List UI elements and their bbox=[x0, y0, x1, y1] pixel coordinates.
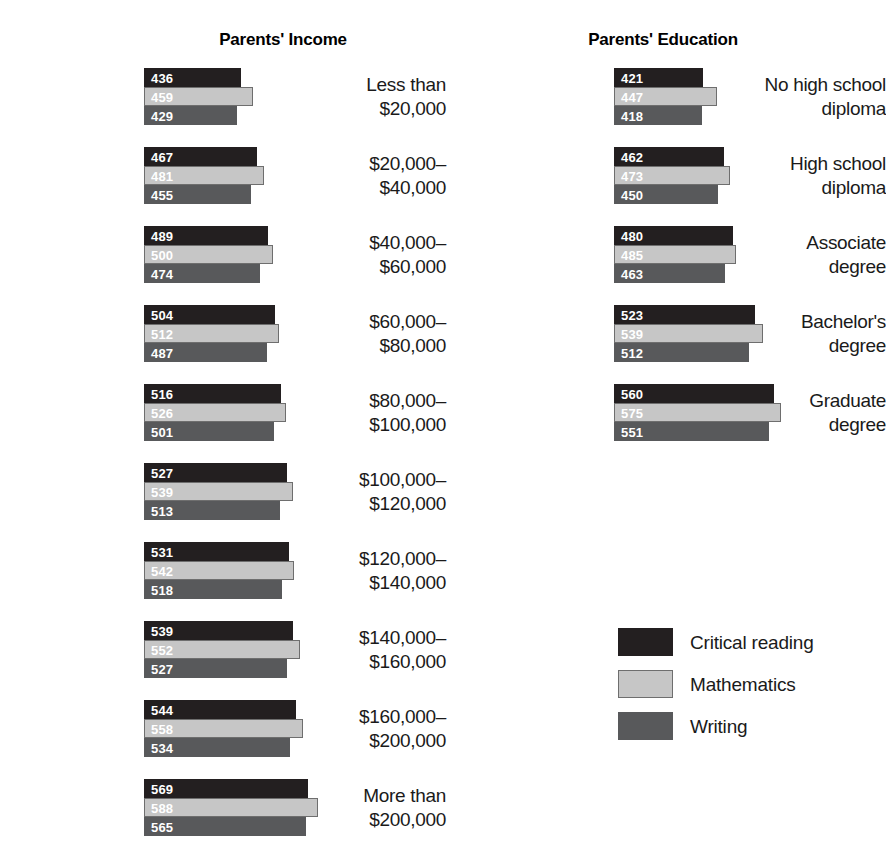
bar-value-label: 534 bbox=[151, 741, 173, 754]
category-label: Less than $20,000 bbox=[312, 73, 446, 121]
bar-education-4-2: 551 bbox=[614, 422, 769, 441]
bar-education-3-1: 539 bbox=[614, 324, 763, 343]
bar-income-4-2: 501 bbox=[144, 422, 274, 441]
bar-education-1-0: 462 bbox=[614, 147, 724, 166]
bar-value-label: 518 bbox=[151, 583, 173, 596]
bar-group: $40,000– $60,000489500474 bbox=[0, 226, 446, 283]
bar-value-label: 539 bbox=[151, 485, 173, 498]
bar-income-6-2: 518 bbox=[144, 580, 282, 599]
bar-value-label: 523 bbox=[621, 308, 643, 321]
bar-value-label: 421 bbox=[621, 71, 643, 84]
bar-group: Less than $20,000436459429 bbox=[0, 68, 446, 125]
bar-education-0-2: 418 bbox=[614, 106, 702, 125]
category-label: $120,000– $140,000 bbox=[312, 547, 446, 595]
bar-value-label: 473 bbox=[621, 169, 643, 182]
category-label: High school diploma bbox=[720, 152, 886, 200]
bar-group: $140,000– $160,000539552527 bbox=[0, 621, 446, 678]
bar-value-label: 544 bbox=[151, 703, 173, 716]
bar-value-label: 459 bbox=[151, 90, 173, 103]
bar-value-label: 450 bbox=[621, 188, 643, 201]
bar-value-label: 565 bbox=[151, 820, 173, 833]
legend-swatch-2 bbox=[618, 712, 673, 740]
bar-income-3-0: 504 bbox=[144, 305, 275, 324]
bar-value-label: 487 bbox=[151, 346, 173, 359]
bar-value-label: 558 bbox=[151, 722, 173, 735]
bar-value-label: 462 bbox=[621, 150, 643, 163]
bar-value-label: 551 bbox=[621, 425, 643, 438]
bar-value-label: 447 bbox=[621, 90, 643, 103]
bar-education-3-0: 523 bbox=[614, 305, 755, 324]
bar-group: Bachelor's degree523539512 bbox=[440, 305, 886, 362]
bar-value-label: 569 bbox=[151, 782, 173, 795]
bar-value-label: 516 bbox=[151, 387, 173, 400]
bar-income-7-2: 527 bbox=[144, 659, 287, 678]
bar-income-1-2: 455 bbox=[144, 185, 251, 204]
bar-income-5-0: 527 bbox=[144, 463, 287, 482]
legend-label: Critical reading bbox=[690, 632, 814, 654]
bar-value-label: 429 bbox=[151, 109, 173, 122]
bar-education-2-2: 463 bbox=[614, 264, 725, 283]
category-label: $140,000– $160,000 bbox=[312, 626, 446, 674]
bar-value-label: 480 bbox=[621, 229, 643, 242]
bar-value-label: 539 bbox=[621, 327, 643, 340]
bar-group: $100,000– $120,000527539513 bbox=[0, 463, 446, 520]
bar-group: High school diploma462473450 bbox=[440, 147, 886, 204]
bar-value-label: 474 bbox=[151, 267, 173, 280]
category-label: Associate degree bbox=[720, 231, 886, 279]
legend-label: Mathematics bbox=[690, 674, 796, 696]
bar-income-2-1: 500 bbox=[144, 245, 273, 264]
bar-group: Associate degree480485463 bbox=[440, 226, 886, 283]
bar-income-3-2: 487 bbox=[144, 343, 267, 362]
bar-education-1-1: 473 bbox=[614, 166, 730, 185]
bar-group: No high school diploma421447418 bbox=[440, 68, 886, 125]
bar-education-0-1: 447 bbox=[614, 87, 717, 106]
bar-income-4-0: 516 bbox=[144, 384, 281, 403]
bar-education-2-1: 485 bbox=[614, 245, 736, 264]
bar-income-9-1: 588 bbox=[144, 798, 318, 817]
bar-value-label: 463 bbox=[621, 267, 643, 280]
bar-education-2-0: 480 bbox=[614, 226, 733, 245]
bar-value-label: 504 bbox=[151, 308, 173, 321]
bar-education-4-0: 560 bbox=[614, 384, 774, 403]
bar-value-label: 542 bbox=[151, 564, 173, 577]
legend-swatch-0 bbox=[618, 628, 673, 656]
bar-income-1-0: 467 bbox=[144, 147, 257, 166]
bar-value-label: 501 bbox=[151, 425, 173, 438]
bar-income-2-2: 474 bbox=[144, 264, 260, 283]
bar-value-label: 500 bbox=[151, 248, 173, 261]
bar-income-7-1: 552 bbox=[144, 640, 300, 659]
bar-group: $120,000– $140,000531542518 bbox=[0, 542, 446, 599]
bar-value-label: 418 bbox=[621, 109, 643, 122]
bar-income-5-2: 513 bbox=[144, 501, 280, 520]
bar-income-3-1: 512 bbox=[144, 324, 279, 343]
category-label: $80,000– $100,000 bbox=[312, 389, 446, 437]
bar-value-label: 513 bbox=[151, 504, 173, 517]
bar-value-label: 552 bbox=[151, 643, 173, 656]
bar-value-label: 560 bbox=[621, 387, 643, 400]
bar-value-label: 455 bbox=[151, 188, 173, 201]
bar-education-1-2: 450 bbox=[614, 185, 718, 204]
bar-value-label: 467 bbox=[151, 150, 173, 163]
bar-income-8-1: 558 bbox=[144, 719, 303, 738]
bar-value-label: 539 bbox=[151, 624, 173, 637]
category-label: $100,000– $120,000 bbox=[312, 468, 446, 516]
bar-value-label: 436 bbox=[151, 71, 173, 84]
panel-title-education: Parents' Education bbox=[440, 30, 886, 50]
category-label: $60,000– $80,000 bbox=[312, 310, 446, 358]
bar-education-4-1: 575 bbox=[614, 403, 781, 422]
bar-education-3-2: 512 bbox=[614, 343, 749, 362]
bar-education-0-0: 421 bbox=[614, 68, 703, 87]
bar-income-8-2: 534 bbox=[144, 738, 290, 757]
bar-value-label: 489 bbox=[151, 229, 173, 242]
bar-value-label: 512 bbox=[151, 327, 173, 340]
bar-value-label: 527 bbox=[151, 662, 173, 675]
category-label: $20,000– $40,000 bbox=[312, 152, 446, 200]
bar-group: Graduate degree560575551 bbox=[440, 384, 886, 441]
bar-income-4-1: 526 bbox=[144, 403, 286, 422]
bar-income-5-1: 539 bbox=[144, 482, 293, 501]
bar-value-label: 588 bbox=[151, 801, 173, 814]
bar-income-0-0: 436 bbox=[144, 68, 241, 87]
bar-income-7-0: 539 bbox=[144, 621, 293, 640]
bar-value-label: 531 bbox=[151, 545, 173, 558]
bar-value-label: 512 bbox=[621, 346, 643, 359]
